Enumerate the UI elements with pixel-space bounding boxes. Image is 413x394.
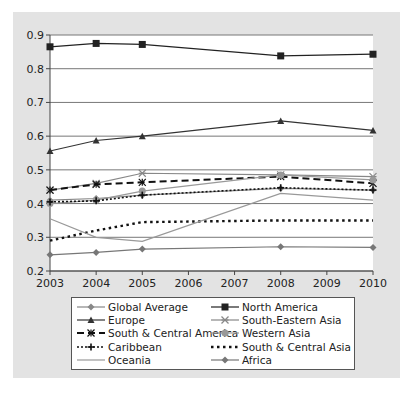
data-point (139, 41, 146, 48)
y-tick-label: 0.8 (27, 63, 45, 76)
legend-marker (222, 316, 229, 323)
legend-label: Europe (108, 314, 145, 326)
legend-item: North America (210, 300, 318, 313)
legend-marker (222, 330, 229, 337)
legend-marker (222, 303, 229, 310)
data-point (370, 176, 377, 183)
legend-swatch (210, 302, 240, 312)
legend-label: South & Central Asia (242, 341, 351, 353)
legend-item: Oceania (76, 354, 151, 367)
legend-marker (222, 357, 229, 364)
legend-label: Global Average (108, 301, 188, 313)
legend-swatch (76, 328, 106, 338)
data-point (93, 40, 100, 47)
legend-marker (88, 303, 95, 310)
legend: Global AverageNorth AmericaEuropeSouth-E… (71, 297, 355, 370)
legend-item: South-Eastern Asia (210, 313, 342, 326)
x-tick-label: 2010 (359, 277, 387, 290)
x-tick-label: 2009 (313, 277, 341, 290)
legend-item: Europe (76, 313, 145, 326)
legend-label: Western Asia (242, 327, 310, 339)
legend-swatch (210, 328, 240, 338)
legend-item: Western Asia (210, 327, 310, 340)
plot-area (50, 35, 373, 271)
y-tick-label: 0.6 (27, 130, 45, 143)
legend-item: Caribbean (76, 340, 162, 353)
legend-swatch (76, 302, 106, 312)
legend-marker (88, 343, 95, 350)
data-point (277, 171, 284, 178)
x-tick-label: 2005 (128, 277, 156, 290)
legend-swatch (76, 315, 106, 325)
y-tick-label: 0.5 (27, 164, 45, 177)
y-tick-label: 0.4 (27, 198, 45, 211)
data-point (277, 52, 284, 59)
y-tick-label: 0.7 (27, 96, 45, 109)
x-tick-label: 2008 (267, 277, 295, 290)
legend-label: North America (242, 301, 318, 313)
legend-swatch (210, 355, 240, 365)
legend-swatch (210, 342, 240, 352)
legend-swatch (76, 355, 106, 365)
x-tick-label: 2004 (82, 277, 110, 290)
legend-swatch (210, 315, 240, 325)
x-tick-label: 2006 (174, 277, 202, 290)
legend-label: South-Eastern Asia (242, 314, 342, 326)
legend-swatch (76, 342, 106, 352)
legend-label: Caribbean (108, 341, 162, 353)
x-tick-label: 2003 (36, 277, 64, 290)
legend-label: Africa (242, 354, 272, 366)
x-tick-label: 2007 (221, 277, 249, 290)
y-tick-label: 0.3 (27, 231, 45, 244)
legend-item: Global Average (76, 300, 188, 313)
legend-item: South & Central Asia (210, 340, 351, 353)
data-point (370, 51, 377, 58)
legend-label: Oceania (108, 354, 151, 366)
data-point (47, 43, 54, 50)
y-tick-label: 0.9 (27, 29, 45, 42)
legend-item: Africa (210, 354, 272, 367)
